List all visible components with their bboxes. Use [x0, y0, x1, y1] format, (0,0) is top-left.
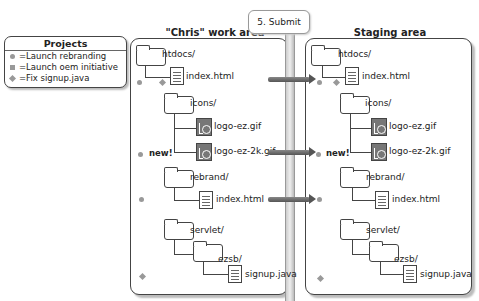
folder-htdocs: htdocs/	[338, 49, 371, 59]
tree-line	[352, 200, 376, 201]
folder-icons: icons/	[365, 98, 391, 108]
square-marker-icon	[10, 65, 15, 70]
circle-marker-icon	[317, 197, 322, 202]
legend-title: Projects	[5, 37, 126, 51]
circle-marker-icon	[139, 197, 144, 202]
file-signup-java: signup.java	[245, 269, 297, 279]
new-badge: new!	[149, 148, 173, 158]
tree-line	[174, 152, 197, 153]
file-logo-ez-gif: logo-ez.gif	[214, 121, 261, 131]
submit-arrow	[268, 150, 310, 155]
file-index-html: index.html	[216, 194, 264, 204]
document-icon	[170, 67, 184, 85]
staging-area-title: Staging area	[340, 27, 440, 38]
submit-channel	[285, 32, 295, 301]
tree-line	[352, 254, 370, 255]
file-logo-ez-2k-gif: logo-ez-2k.gif	[214, 146, 275, 156]
file-signup-java: signup.java	[420, 269, 472, 279]
tree-line	[350, 128, 372, 129]
legend-item-signup: =Fix signup.java	[5, 73, 126, 84]
file-index-html: index.html	[362, 71, 410, 81]
arrow-head-icon	[309, 194, 316, 204]
diamond-marker-icon	[9, 75, 16, 82]
tree-line	[380, 274, 404, 275]
folder-rebrand: rebrand/	[190, 172, 228, 182]
folder-ezsb: ezsb/	[394, 254, 418, 264]
tree-line	[352, 240, 353, 254]
legend-item-rebranding: =Launch rebranding	[5, 51, 126, 62]
legend-label: =Fix signup.java	[19, 73, 89, 83]
tree-line	[380, 262, 381, 274]
document-icon	[345, 67, 359, 85]
tree-line	[203, 274, 229, 275]
projects-legend: Projects =Launch rebranding =Launch oem …	[4, 36, 127, 88]
document-icon	[375, 191, 389, 209]
tree-line	[350, 152, 372, 153]
legend-label: =Launch rebranding	[19, 51, 106, 61]
folder-icon	[311, 48, 341, 66]
tree-line	[174, 188, 175, 200]
circle-marker-icon	[10, 54, 15, 59]
tree-line	[203, 262, 204, 274]
image-file-icon	[371, 143, 387, 161]
tree-line	[174, 240, 175, 254]
folder-rebrand: rebrand/	[366, 172, 404, 182]
tree-line	[322, 77, 346, 78]
document-icon	[199, 191, 213, 209]
document-icon	[403, 265, 417, 283]
tree-line	[174, 254, 194, 255]
file-logo-ez-2k-gif: logo-ez-2k.gif	[389, 146, 450, 156]
tree-line	[174, 114, 175, 152]
image-file-icon	[196, 118, 212, 136]
folder-ezsb: ezsb/	[218, 254, 242, 264]
circle-marker-icon	[137, 80, 142, 85]
legend-label: =Launch oem initiative	[19, 62, 118, 72]
circle-marker-icon	[316, 152, 321, 157]
image-file-icon	[196, 143, 212, 161]
submit-arrow	[268, 77, 310, 82]
circle-marker-icon	[138, 152, 143, 157]
folder-servlet: servlet/	[190, 225, 224, 235]
folder-icons: icons/	[190, 98, 216, 108]
document-icon	[228, 265, 242, 283]
folder-htdocs: htdocs/	[162, 49, 195, 59]
tree-line	[174, 200, 200, 201]
submit-callout: 5. Submit	[248, 10, 310, 34]
tree-line	[145, 77, 171, 78]
new-badge: new!	[326, 148, 350, 158]
arrow-head-icon	[309, 74, 316, 84]
arrow-head-icon	[309, 147, 316, 157]
tree-line	[352, 188, 353, 200]
file-index-html: index.html	[392, 194, 440, 204]
folder-servlet: servlet/	[366, 225, 400, 235]
legend-item-oem: =Launch oem initiative	[5, 62, 126, 73]
tree-line	[350, 114, 351, 152]
file-index-html: index.html	[186, 71, 234, 81]
tree-line	[174, 128, 197, 129]
submit-arrow	[268, 197, 310, 202]
file-logo-ez-gif: logo-ez.gif	[389, 121, 436, 131]
circle-marker-icon	[317, 80, 322, 85]
image-file-icon	[371, 118, 387, 136]
